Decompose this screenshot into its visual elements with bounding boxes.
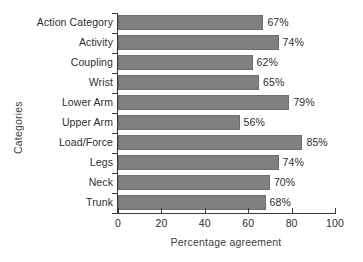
bar-row: Action Category67% bbox=[0, 13, 363, 33]
bar-row: Coupling62% bbox=[0, 53, 363, 73]
y-axis-tick bbox=[112, 13, 118, 14]
bar bbox=[118, 35, 279, 50]
x-axis-tick-label: 60 bbox=[233, 217, 263, 229]
y-axis-tick bbox=[112, 133, 118, 134]
bars-container: Action Category67%Activity74%Coupling62%… bbox=[0, 0, 363, 262]
bar bbox=[118, 95, 289, 110]
y-axis-tick bbox=[112, 213, 118, 214]
bar-value-label: 65% bbox=[263, 76, 284, 88]
category-label: Legs bbox=[90, 156, 113, 168]
x-axis-tick bbox=[118, 208, 119, 213]
category-label: Trunk bbox=[86, 196, 113, 208]
bar-row: Activity74% bbox=[0, 33, 363, 53]
bar-value-label: 74% bbox=[283, 156, 304, 168]
x-axis-tick bbox=[161, 208, 162, 213]
bar-value-label: 56% bbox=[244, 116, 265, 128]
bar-value-label: 67% bbox=[267, 16, 288, 28]
bar bbox=[118, 195, 266, 210]
category-label: Load/Force bbox=[59, 136, 113, 148]
bar-value-label: 70% bbox=[274, 176, 295, 188]
bar-row: Neck70% bbox=[0, 173, 363, 193]
category-label: Lower Arm bbox=[62, 96, 113, 108]
bar-row: Load/Force85% bbox=[0, 133, 363, 153]
y-axis-tick bbox=[112, 153, 118, 154]
category-label: Neck bbox=[89, 176, 113, 188]
y-axis-tick bbox=[112, 33, 118, 34]
bar bbox=[118, 15, 263, 30]
y-axis-tick bbox=[112, 93, 118, 94]
x-axis-tick-label: 80 bbox=[277, 217, 307, 229]
bar-row: Upper Arm56% bbox=[0, 113, 363, 133]
x-axis-tick-label: 20 bbox=[146, 217, 176, 229]
x-axis-tick-label: 40 bbox=[190, 217, 220, 229]
category-label: Activity bbox=[79, 36, 113, 48]
bar bbox=[118, 155, 279, 170]
x-axis-tick bbox=[292, 208, 293, 213]
bar-row: Legs74% bbox=[0, 153, 363, 173]
y-axis-tick bbox=[112, 73, 118, 74]
bar-value-label: 68% bbox=[270, 196, 291, 208]
category-label: Action Category bbox=[37, 16, 113, 28]
bar bbox=[118, 75, 259, 90]
category-label: Upper Arm bbox=[62, 116, 113, 128]
bar-row: Lower Arm79% bbox=[0, 93, 363, 113]
x-axis-tick bbox=[248, 208, 249, 213]
y-axis-tick bbox=[112, 113, 118, 114]
bar-row: Wrist65% bbox=[0, 73, 363, 93]
y-axis-tick bbox=[112, 193, 118, 194]
bar-value-label: 62% bbox=[257, 56, 278, 68]
bar-value-label: 85% bbox=[306, 136, 327, 148]
x-axis-tick bbox=[205, 208, 206, 213]
bar-row: Trunk68% bbox=[0, 193, 363, 213]
x-axis-label: Percentage agreement bbox=[117, 236, 335, 248]
bar bbox=[118, 55, 253, 70]
bar-value-label: 74% bbox=[283, 36, 304, 48]
category-label: Coupling bbox=[71, 56, 113, 68]
x-axis-tick-label: 0 bbox=[103, 217, 133, 229]
x-axis-tick bbox=[335, 208, 336, 213]
y-axis-tick bbox=[112, 173, 118, 174]
x-axis-tick-label: 100 bbox=[320, 217, 350, 229]
bar bbox=[118, 115, 240, 130]
bar-value-label: 79% bbox=[293, 96, 314, 108]
bar bbox=[118, 135, 302, 150]
bar-chart: Categories Action Category67%Activity74%… bbox=[0, 0, 363, 262]
y-axis-tick bbox=[112, 53, 118, 54]
category-label: Wrist bbox=[89, 76, 113, 88]
bar bbox=[118, 175, 270, 190]
